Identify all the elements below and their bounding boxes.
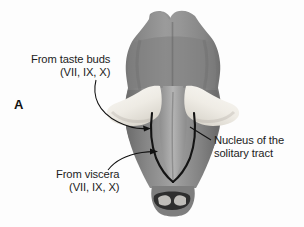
label-from-viscera: From viscera (VII, IX, X) [56, 168, 119, 194]
label-taste-line2: (VII, IX, X) [31, 66, 110, 79]
panel-letter: A [14, 97, 23, 112]
label-from-taste-buds: From taste buds (VII, IX, X) [31, 53, 110, 79]
label-taste-line1: From taste buds [31, 53, 110, 65]
arrowhead-viscera [150, 149, 158, 155]
label-nucleus-line2: solitary tract [214, 147, 284, 160]
arrowhead-taste-buds [143, 126, 151, 132]
label-viscera-line2: (VII, IX, X) [56, 181, 119, 194]
label-nucleus-line1: Nucleus of the [214, 134, 284, 146]
label-nucleus-of-solitary-tract: Nucleus of the solitary tract [214, 134, 284, 160]
label-viscera-line1: From viscera [56, 168, 119, 180]
figure-panel: From taste buds (VII, IX, X) From viscer… [0, 0, 304, 227]
leader-nucleus-solitary-tract [190, 127, 211, 140]
leader-taste-buds [95, 80, 146, 129]
annotation-leaders [0, 0, 304, 227]
